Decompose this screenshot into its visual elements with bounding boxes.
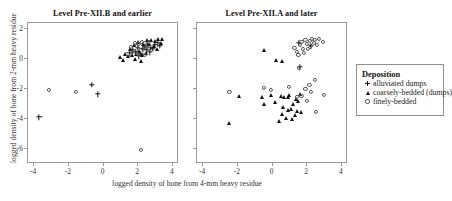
x-tick-mark xyxy=(306,163,307,166)
y-tick-mark xyxy=(24,88,27,89)
data-point-tri xyxy=(280,59,284,63)
x-tick-label: 4 xyxy=(170,167,174,176)
x-tick-label: 2 xyxy=(135,167,139,176)
data-point-tri xyxy=(139,59,143,63)
data-point-plus xyxy=(147,50,152,55)
data-point-tri xyxy=(280,112,284,116)
data-point-tri xyxy=(269,93,273,97)
data-point-tri xyxy=(159,41,163,45)
y-tick-mark xyxy=(24,58,27,59)
legend-item-label: coarsely-bedded (dumps) xyxy=(373,88,452,97)
legend-item: coarsely-bedded (dumps) xyxy=(362,88,439,97)
y-tick-mark xyxy=(193,148,196,149)
data-point-tri xyxy=(286,108,290,112)
x-tick-label: -2 xyxy=(65,167,71,176)
legend-entries: alluviated dumpscoarsely-bedded (dumps)f… xyxy=(362,79,439,106)
data-point-tri xyxy=(121,58,125,62)
data-point-tri xyxy=(260,95,264,99)
y-tick-mark xyxy=(24,148,27,149)
legend-item: finely-bedded xyxy=(362,97,439,106)
y-tick-mark xyxy=(193,88,196,89)
x-tick-mark xyxy=(68,163,69,166)
data-point-tri xyxy=(287,93,291,97)
data-point-tri xyxy=(299,110,303,114)
data-point-tri xyxy=(160,37,164,41)
y-tick-mark xyxy=(24,118,27,119)
legend-title: Deposition xyxy=(362,70,439,79)
y-tick-label: -6 xyxy=(9,144,23,153)
x-tick-mark xyxy=(33,163,34,166)
x-tick-mark xyxy=(137,163,138,166)
x-axis-label: logged density of bone from 4-mm heavy r… xyxy=(27,179,347,188)
y-tick-mark xyxy=(24,28,27,29)
data-point-tri xyxy=(237,94,241,98)
data-point-tri xyxy=(155,47,159,51)
panel-title-right: Level Pre-XII.A and later xyxy=(196,9,347,18)
x-tick-label: 0 xyxy=(101,167,105,176)
x-tick-label: -4 xyxy=(199,167,205,176)
y-tick-mark xyxy=(193,118,196,119)
data-point-tri xyxy=(274,58,278,62)
data-point-tri xyxy=(227,121,231,125)
x-tick-label: -2 xyxy=(234,167,240,176)
x-tick-mark xyxy=(272,163,273,166)
y-tick-mark xyxy=(193,28,196,29)
plus-marker xyxy=(362,81,373,86)
data-point-tri xyxy=(133,57,137,61)
data-point-tri xyxy=(277,119,281,123)
y-tick-label: -2 xyxy=(9,84,23,93)
data-point-tri xyxy=(284,116,288,120)
x-tick-mark xyxy=(202,163,203,166)
x-tick-mark xyxy=(341,163,342,166)
data-point-tri xyxy=(281,105,285,109)
x-tick-label: -4 xyxy=(30,167,36,176)
triangle-marker xyxy=(362,91,373,95)
data-point-tri xyxy=(273,100,277,104)
data-point-tri xyxy=(262,102,266,106)
x-tick-label: 4 xyxy=(339,167,343,176)
x-tick-label: 2 xyxy=(304,167,308,176)
circle-marker xyxy=(362,99,373,103)
y-tick-label: 2 xyxy=(9,24,23,33)
data-point-plus xyxy=(95,92,100,97)
y-axis-label: logged density of bone from 2-mm heavy r… xyxy=(9,22,18,163)
legend-item-label: finely-bedded xyxy=(373,97,416,106)
x-tick-label: 0 xyxy=(270,167,274,176)
y-tick-mark xyxy=(193,58,196,59)
legend-item: alluviated dumps xyxy=(362,79,439,88)
data-point-tri xyxy=(291,102,295,106)
legend-deposition: Deposition alluviated dumpscoarsely-bedd… xyxy=(356,64,444,116)
y-tick-label: -4 xyxy=(9,114,23,123)
legend-item-label: alluviated dumps xyxy=(373,79,427,88)
panel-title-left: Level Pre-XII.B and earlier xyxy=(27,9,178,18)
data-point-plus xyxy=(36,115,41,120)
y-tick-label: 0 xyxy=(9,54,23,63)
data-point-tri xyxy=(293,113,297,117)
x-tick-mark xyxy=(103,163,104,166)
x-tick-mark xyxy=(172,163,173,166)
data-point-tri xyxy=(290,117,294,121)
x-tick-mark xyxy=(237,163,238,166)
data-point-plus xyxy=(89,82,94,87)
data-point-tri xyxy=(262,48,266,52)
